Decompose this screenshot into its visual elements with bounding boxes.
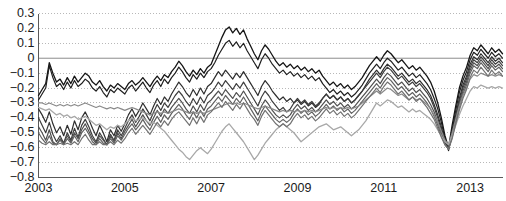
y-tick-label: −0.1 — [10, 67, 35, 80]
y-tick-label: 0.2 — [17, 22, 34, 35]
x-tick-label: 2005 — [103, 182, 147, 195]
y-tick-label: 0 — [28, 52, 35, 65]
y-tick-label: −0.2 — [10, 82, 35, 95]
y-tick-label: −0.7 — [10, 156, 35, 169]
x-tick-label: 2007 — [189, 182, 233, 195]
line-chart: 0.30.20.10−0.1−0.2−0.3−0.4−0.5−0.6−0.7−0… — [0, 0, 506, 201]
y-tick-label: 0.1 — [17, 37, 34, 50]
y-tick-label: 0.3 — [17, 7, 34, 20]
x-tick-label: 2013 — [448, 182, 492, 195]
y-tick-label: −0.5 — [10, 126, 35, 139]
y-tick-label: −0.3 — [10, 96, 35, 109]
y-tick-label: −0.6 — [10, 141, 35, 154]
series-2-dark — [39, 40, 503, 150]
x-tick-label: 2003 — [17, 182, 61, 195]
chart-plot-area — [0, 0, 506, 201]
series-lines — [39, 27, 503, 160]
x-tick-label: 2009 — [275, 182, 319, 195]
y-tick-label: −0.4 — [10, 111, 35, 124]
series-3-dark-mid — [39, 54, 503, 149]
x-tick-label: 2011 — [362, 182, 406, 195]
